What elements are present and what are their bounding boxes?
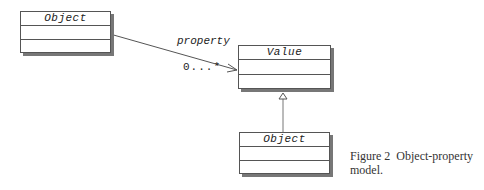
caption-text: Object-property xyxy=(396,149,473,163)
class-name: Value xyxy=(239,46,330,60)
attributes-compartment xyxy=(21,26,110,40)
figure-caption: Figure 2 Object-property model. xyxy=(350,149,473,177)
methods-compartment xyxy=(240,161,329,173)
figure-number: Figure 2 xyxy=(350,149,390,163)
methods-compartment xyxy=(21,40,110,52)
inheritance-triangle-icon xyxy=(279,93,287,99)
attributes-compartment xyxy=(240,147,329,161)
class-name: Object xyxy=(240,133,329,147)
attributes-compartment xyxy=(239,60,330,75)
class-value: Value xyxy=(238,45,331,89)
multiplicity-label: 0...* xyxy=(183,61,221,73)
caption-text-line2: model. xyxy=(350,163,383,177)
class-name: Object xyxy=(21,12,110,26)
class-object-source: Object xyxy=(20,11,111,53)
role-label: property xyxy=(177,35,230,47)
class-object-subclass: Object xyxy=(239,132,330,174)
methods-compartment xyxy=(239,75,330,88)
